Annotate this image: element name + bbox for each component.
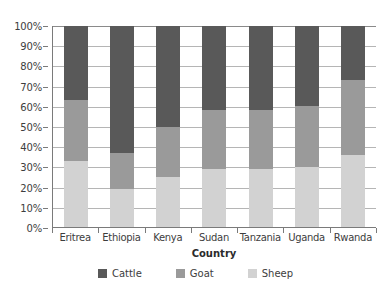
bar-slot — [238, 26, 284, 227]
y-tick-label: 40% — [20, 142, 42, 153]
y-axis: 100%90%80%70%60%50%40%30%20%10%0% — [0, 26, 48, 228]
bar-segment-sheep[interactable] — [202, 169, 226, 227]
bar-segment-sheep[interactable] — [64, 161, 88, 227]
y-tick-mark — [43, 26, 48, 27]
legend-item-goat[interactable]: Goat — [176, 268, 214, 279]
bar-segment-goat[interactable] — [202, 110, 226, 168]
bar-segment-goat[interactable] — [110, 153, 134, 189]
bar-segment-sheep[interactable] — [295, 167, 319, 227]
bar-segment-goat[interactable] — [341, 80, 365, 154]
legend-label: Sheep — [262, 268, 293, 279]
y-tick-label: 100% — [14, 21, 42, 32]
y-tick-label: 60% — [20, 101, 42, 112]
bar-slot — [330, 26, 376, 227]
x-axis-category-label: Eritrea — [52, 232, 98, 243]
y-tick-label: 0% — [27, 223, 42, 234]
y-tick-label: 10% — [20, 202, 42, 213]
x-axis-title: Country — [52, 248, 376, 259]
legend-item-cattle[interactable]: Cattle — [98, 268, 142, 279]
bar-slot — [284, 26, 330, 227]
stacked-bar[interactable] — [64, 26, 88, 227]
bar-segment-sheep[interactable] — [156, 177, 180, 227]
bar-segment-cattle[interactable] — [64, 26, 88, 100]
x-axis-category-label: Ethiopia — [98, 232, 144, 243]
bar-segment-cattle[interactable] — [341, 26, 365, 80]
legend-swatch-icon — [248, 269, 257, 278]
bar-segment-cattle[interactable] — [202, 26, 226, 110]
stacked-bar-chart: 100%90%80%70%60%50%40%30%20%10%0% Eritre… — [0, 0, 391, 291]
y-tick-label: 90% — [20, 41, 42, 52]
bar-segment-cattle[interactable] — [110, 26, 134, 153]
bar-segment-sheep[interactable] — [341, 155, 365, 227]
bar-segment-cattle[interactable] — [156, 26, 180, 127]
bar-segment-sheep[interactable] — [249, 169, 273, 227]
plot-area — [52, 26, 376, 228]
y-tick-mark — [43, 188, 48, 189]
legend-item-sheep[interactable]: Sheep — [248, 268, 293, 279]
y-tick-mark — [43, 107, 48, 108]
x-tick-mark — [376, 228, 377, 233]
x-axis-labels: EritreaEthiopiaKenyaSudanTanzaniaUgandaR… — [52, 232, 376, 243]
stacked-bar[interactable] — [341, 26, 365, 227]
y-tick-mark — [43, 147, 48, 148]
y-tick-mark — [43, 127, 48, 128]
y-tick-mark — [43, 228, 48, 229]
stacked-bar[interactable] — [202, 26, 226, 227]
x-axis-category-label: Kenya — [145, 232, 191, 243]
legend-label: Goat — [190, 268, 214, 279]
y-tick-mark — [43, 46, 48, 47]
bar-segment-goat[interactable] — [156, 127, 180, 177]
stacked-bar[interactable] — [110, 26, 134, 227]
bar-segment-cattle[interactable] — [249, 26, 273, 110]
bar-segment-goat[interactable] — [64, 100, 88, 160]
x-axis-category-label: Sudan — [191, 232, 237, 243]
chart-legend: CattleGoatSheep — [0, 268, 391, 279]
bar-slot — [53, 26, 99, 227]
bar-segment-goat[interactable] — [249, 110, 273, 168]
bar-segment-sheep[interactable] — [110, 189, 134, 227]
y-tick-mark — [43, 167, 48, 168]
stacked-bar[interactable] — [156, 26, 180, 227]
bar-segment-cattle[interactable] — [295, 26, 319, 106]
y-tick-label: 50% — [20, 122, 42, 133]
y-tick-mark — [43, 87, 48, 88]
bars-layer — [53, 26, 376, 227]
stacked-bar[interactable] — [295, 26, 319, 227]
legend-label: Cattle — [112, 268, 142, 279]
x-axis-category-label: Rwanda — [330, 232, 376, 243]
y-tick-label: 20% — [20, 182, 42, 193]
legend-swatch-icon — [176, 269, 185, 278]
bar-slot — [191, 26, 237, 227]
bar-segment-goat[interactable] — [295, 106, 319, 166]
x-axis-category-label: Tanzania — [237, 232, 283, 243]
bar-slot — [145, 26, 191, 227]
x-axis-category-label: Uganda — [283, 232, 329, 243]
y-tick-label: 70% — [20, 81, 42, 92]
legend-swatch-icon — [98, 269, 107, 278]
stacked-bar[interactable] — [249, 26, 273, 227]
y-tick-mark — [43, 208, 48, 209]
y-tick-label: 80% — [20, 61, 42, 72]
bar-slot — [99, 26, 145, 227]
y-tick-label: 30% — [20, 162, 42, 173]
y-tick-mark — [43, 66, 48, 67]
